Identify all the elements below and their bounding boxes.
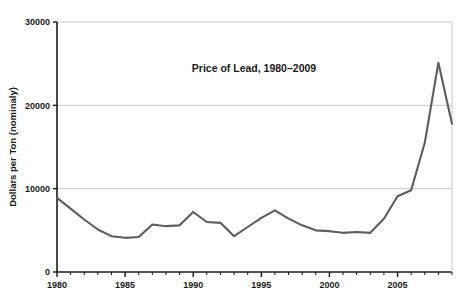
y-tick-label-20000: 20000 (25, 101, 50, 111)
x-tick-label-2000: 2000 (319, 280, 339, 290)
chart-title: Price of Lead, 1980–2009 (192, 62, 316, 74)
y-tick-label-30000: 30000 (25, 17, 50, 27)
x-tick-label-1980: 1980 (47, 280, 67, 290)
line-chart: 0100002000030000 19801985199019952000200… (0, 0, 466, 306)
x-tick-label-1995: 1995 (251, 280, 271, 290)
x-tick-label-2005: 2005 (388, 280, 408, 290)
chart-container: 0100002000030000 19801985199019952000200… (0, 0, 466, 306)
x-tick-label-1985: 1985 (115, 280, 135, 290)
y-tick-label-0: 0 (45, 267, 50, 277)
y-tick-label-10000: 10000 (25, 184, 50, 194)
chart-background (0, 0, 466, 306)
y-axis-label: Dollars per Ton (nominaly) (7, 87, 18, 207)
x-tick-label-1990: 1990 (183, 280, 203, 290)
